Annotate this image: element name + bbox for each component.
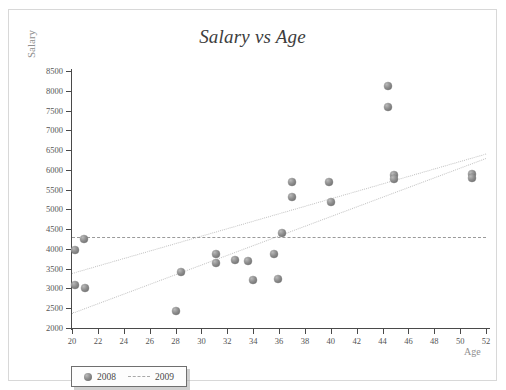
y-tick-label: 6500 (46, 145, 63, 155)
x-tick-label: 38 (301, 336, 310, 346)
x-tick-mark (383, 329, 384, 334)
data-point (274, 275, 282, 283)
data-point (212, 259, 220, 267)
y-tick-label: 2000 (46, 323, 63, 333)
y-tick-label: 3500 (46, 264, 63, 274)
y-tick-label: 7000 (46, 125, 63, 135)
x-tick-mark (253, 329, 254, 334)
x-tick-mark (150, 329, 151, 334)
x-tick-mark (305, 329, 306, 334)
data-point (278, 229, 286, 237)
y-tick-mark (66, 130, 71, 131)
x-tick-mark (486, 329, 487, 334)
x-tick-label: 26 (145, 336, 154, 346)
y-tick-label: 4000 (46, 244, 63, 254)
data-point (325, 178, 333, 186)
x-tick-label: 36 (275, 336, 284, 346)
data-point (384, 103, 392, 111)
y-tick-mark (66, 308, 71, 309)
legend-dashed-line-icon (128, 376, 150, 377)
y-tick-label: 7500 (46, 106, 63, 116)
top-cropped-strip (0, 0, 506, 9)
x-tick-mark (201, 329, 202, 334)
x-tick-label: 46 (404, 336, 413, 346)
data-point (390, 175, 398, 183)
y-tick-label: 3000 (46, 283, 63, 293)
x-tick-label: 32 (223, 336, 232, 346)
data-point (80, 235, 88, 243)
data-point (177, 268, 185, 276)
x-tick-label: 24 (120, 336, 129, 346)
x-tick-label: 40 (327, 336, 336, 346)
y-tick-mark (66, 269, 71, 270)
y-tick-label: 2500 (46, 303, 63, 313)
y-tick-mark (66, 150, 71, 151)
x-tick-label: 48 (430, 336, 439, 346)
x-tick-mark (98, 329, 99, 334)
data-point (384, 82, 392, 90)
data-point (81, 284, 89, 292)
x-tick-mark (408, 329, 409, 334)
y-tick-mark (66, 190, 71, 191)
x-tick-label: 44 (378, 336, 387, 346)
y-tick-label: 8500 (46, 66, 63, 76)
x-tick-label: 42 (352, 336, 361, 346)
x-tick-label: 28 (171, 336, 180, 346)
x-tick-mark (357, 329, 358, 334)
plot-area (72, 71, 486, 328)
x-tick-label: 20 (68, 336, 77, 346)
data-point (231, 256, 239, 264)
data-point (270, 250, 278, 258)
legend-item-2009[interactable]: 2009 (128, 372, 174, 382)
chart-legend[interactable]: 20082009 (71, 366, 187, 387)
y-tick-label: 4500 (46, 224, 63, 234)
x-tick-mark (176, 329, 177, 334)
legend-item-label: 2009 (155, 372, 174, 382)
y-tick-mark (66, 209, 71, 210)
y-tick-label: 5500 (46, 185, 63, 195)
x-tick-mark (124, 329, 125, 334)
data-point (244, 257, 252, 265)
data-point (172, 307, 180, 315)
data-point (327, 198, 335, 206)
chart-frame: Salary vs Age Salary Age 200025003000350… (8, 9, 497, 381)
trend-upper (72, 153, 486, 273)
data-point (468, 174, 476, 182)
y-tick-label: 8000 (46, 86, 63, 96)
x-tick-mark (227, 329, 228, 334)
legend-item-label: 2008 (97, 372, 116, 382)
data-point (71, 281, 79, 289)
x-tick-mark (72, 329, 73, 334)
legend-marker-icon (84, 373, 92, 381)
y-tick-mark (66, 229, 71, 230)
y-tick-mark (66, 91, 71, 92)
y-tick-mark (66, 288, 71, 289)
x-tick-mark (279, 329, 280, 334)
x-tick-label: 52 (482, 336, 491, 346)
x-tick-label: 22 (94, 336, 103, 346)
x-tick-mark (331, 329, 332, 334)
data-point (288, 178, 296, 186)
x-tick-mark (434, 329, 435, 334)
chart-title: Salary vs Age (9, 26, 496, 48)
data-point (288, 193, 296, 201)
x-axis-ticks: 2022242628303234363840424446485052 (71, 329, 490, 351)
y-tick-mark (66, 71, 71, 72)
y-tick-label: 6000 (46, 165, 63, 175)
data-point (71, 246, 79, 254)
legend-item-2008[interactable]: 2008 (84, 372, 116, 382)
y-tick-mark (66, 111, 71, 112)
x-tick-mark (460, 329, 461, 334)
y-tick-label: 5000 (46, 204, 63, 214)
chart-screenshot: Salary vs Age Salary Age 200025003000350… (0, 0, 506, 390)
y-axis-title: Salary (25, 30, 37, 58)
data-point (249, 276, 257, 284)
y-tick-mark (66, 170, 71, 171)
x-tick-label: 34 (249, 336, 258, 346)
reference-horizontal (72, 237, 486, 238)
x-tick-label: 30 (197, 336, 206, 346)
x-tick-label: 50 (456, 336, 465, 346)
